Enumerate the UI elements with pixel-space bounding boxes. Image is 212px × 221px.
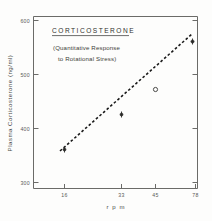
x-axis-title: r p m — [106, 204, 125, 210]
y-tick-label-300: 300 — [20, 180, 30, 186]
y-axis-ticks — [34, 21, 39, 183]
chart-subtitle-line1: (Quantitative Response — [53, 44, 120, 51]
marker-33 — [120, 113, 123, 116]
marker-16 — [63, 148, 66, 151]
y-axis-right-ticks — [193, 21, 198, 183]
regression-line — [60, 34, 192, 151]
data-point-45 — [153, 87, 157, 91]
y-tick-label-500: 500 — [20, 72, 30, 78]
figure-panel: 600 500 400 300 16 33 45 78 r p m Plasma… — [0, 0, 212, 221]
y-tick-label-600: 600 — [20, 18, 30, 24]
chart-subtitle-line2: to Rotational Stress) — [58, 55, 116, 62]
y-axis-title: Plasma Corticosterone (ng/ml) — [6, 55, 13, 152]
x-tick-label-33: 33 — [118, 192, 124, 198]
y-tick-label-400: 400 — [20, 126, 30, 132]
x-tick-label-78: 78 — [192, 192, 198, 198]
marker-78 — [191, 40, 194, 43]
corticosterone-scatter-chart: 600 500 400 300 16 33 45 78 r p m Plasma… — [0, 0, 212, 221]
chart-title: CORTICOSTERONE — [52, 27, 135, 34]
data-point-78 — [191, 39, 194, 45]
data-point-33 — [120, 112, 123, 118]
x-axis-ticks — [65, 184, 196, 189]
x-tick-label-16: 16 — [61, 192, 67, 198]
x-tick-label-45: 45 — [152, 192, 158, 198]
marker-45 — [153, 87, 157, 91]
